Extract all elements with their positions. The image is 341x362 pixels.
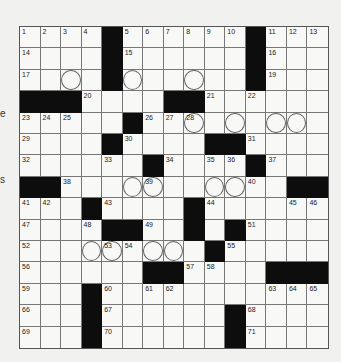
grid-cell[interactable] bbox=[164, 48, 185, 69]
grid-cell[interactable]: 19 bbox=[266, 70, 287, 91]
grid-cell[interactable]: 38 bbox=[61, 177, 82, 198]
grid-cell[interactable] bbox=[143, 305, 164, 326]
grid-cell[interactable]: 67 bbox=[102, 305, 123, 326]
grid-cell[interactable] bbox=[266, 305, 287, 326]
grid-cell[interactable]: 11 bbox=[266, 27, 287, 48]
grid-cell[interactable]: 10 bbox=[225, 27, 246, 48]
grid-cell[interactable]: 20 bbox=[82, 91, 103, 112]
grid-cell[interactable] bbox=[123, 91, 144, 112]
grid-cell[interactable] bbox=[41, 220, 62, 241]
grid-cell[interactable] bbox=[307, 327, 328, 348]
grid-cell[interactable] bbox=[287, 305, 308, 326]
grid-cell[interactable] bbox=[287, 70, 308, 91]
grid-cell[interactable]: 31 bbox=[246, 134, 267, 155]
grid-cell[interactable]: 34 bbox=[164, 155, 185, 176]
grid-cell[interactable]: 44 bbox=[205, 198, 226, 219]
grid-cell[interactable] bbox=[143, 327, 164, 348]
grid-cell[interactable] bbox=[225, 198, 246, 219]
grid-cell[interactable]: 61 bbox=[143, 284, 164, 305]
grid-cell[interactable] bbox=[307, 155, 328, 176]
grid-cell[interactable] bbox=[164, 241, 185, 262]
grid-cell[interactable]: 33 bbox=[102, 155, 123, 176]
grid-cell[interactable]: 42 bbox=[41, 198, 62, 219]
grid-cell[interactable] bbox=[41, 305, 62, 326]
grid-cell[interactable] bbox=[61, 262, 82, 283]
grid-cell[interactable] bbox=[205, 220, 226, 241]
grid-cell[interactable] bbox=[307, 48, 328, 69]
grid-cell[interactable]: 48 bbox=[82, 220, 103, 241]
grid-cell[interactable] bbox=[41, 70, 62, 91]
grid-cell[interactable] bbox=[164, 177, 185, 198]
grid-cell[interactable] bbox=[61, 155, 82, 176]
grid-cell[interactable]: 66 bbox=[20, 305, 41, 326]
grid-cell[interactable] bbox=[143, 91, 164, 112]
grid-cell[interactable] bbox=[123, 177, 144, 198]
grid-cell[interactable] bbox=[61, 241, 82, 262]
grid-cell[interactable]: 43 bbox=[102, 198, 123, 219]
grid-cell[interactable] bbox=[307, 220, 328, 241]
grid-cell[interactable]: 36 bbox=[225, 155, 246, 176]
grid-cell[interactable]: 24 bbox=[41, 113, 62, 134]
grid-cell[interactable]: 47 bbox=[20, 220, 41, 241]
grid-cell[interactable] bbox=[225, 262, 246, 283]
grid-cell[interactable] bbox=[205, 305, 226, 326]
grid-cell[interactable]: 53 bbox=[102, 241, 123, 262]
grid-cell[interactable] bbox=[266, 198, 287, 219]
grid-cell[interactable]: 35 bbox=[205, 155, 226, 176]
grid-cell[interactable]: 51 bbox=[246, 220, 267, 241]
grid-cell[interactable]: 15 bbox=[123, 48, 144, 69]
grid-cell[interactable]: 63 bbox=[266, 284, 287, 305]
grid-cell[interactable]: 28 bbox=[184, 113, 205, 134]
grid-cell[interactable] bbox=[287, 113, 308, 134]
grid-cell[interactable] bbox=[61, 305, 82, 326]
grid-cell[interactable] bbox=[184, 327, 205, 348]
grid-cell[interactable]: 13 bbox=[307, 27, 328, 48]
grid-cell[interactable] bbox=[266, 241, 287, 262]
grid-cell[interactable] bbox=[246, 113, 267, 134]
grid-cell[interactable] bbox=[143, 48, 164, 69]
grid-cell[interactable] bbox=[102, 177, 123, 198]
grid-cell[interactable] bbox=[164, 198, 185, 219]
grid-cell[interactable] bbox=[82, 177, 103, 198]
grid-cell[interactable] bbox=[307, 134, 328, 155]
grid-cell[interactable]: 32 bbox=[20, 155, 41, 176]
grid-cell[interactable]: 64 bbox=[287, 284, 308, 305]
grid-cell[interactable] bbox=[82, 155, 103, 176]
grid-cell[interactable] bbox=[287, 48, 308, 69]
grid-cell[interactable]: 57 bbox=[184, 262, 205, 283]
grid-cell[interactable]: 71 bbox=[246, 327, 267, 348]
grid-cell[interactable] bbox=[205, 70, 226, 91]
grid-cell[interactable] bbox=[41, 155, 62, 176]
grid-cell[interactable] bbox=[307, 241, 328, 262]
grid-cell[interactable] bbox=[205, 327, 226, 348]
grid-cell[interactable]: 22 bbox=[246, 91, 267, 112]
grid-cell[interactable] bbox=[266, 220, 287, 241]
grid-cell[interactable] bbox=[307, 70, 328, 91]
grid-cell[interactable]: 54 bbox=[123, 241, 144, 262]
grid-cell[interactable]: 41 bbox=[20, 198, 41, 219]
grid-cell[interactable]: 55 bbox=[225, 241, 246, 262]
grid-cell[interactable] bbox=[82, 241, 103, 262]
grid-cell[interactable] bbox=[102, 113, 123, 134]
grid-cell[interactable] bbox=[287, 134, 308, 155]
grid-cell[interactable] bbox=[307, 91, 328, 112]
grid-cell[interactable]: 21 bbox=[205, 91, 226, 112]
grid-cell[interactable]: 40 bbox=[246, 177, 267, 198]
grid-cell[interactable] bbox=[287, 155, 308, 176]
grid-cell[interactable] bbox=[143, 198, 164, 219]
grid-cell[interactable]: 49 bbox=[143, 220, 164, 241]
grid-cell[interactable] bbox=[82, 48, 103, 69]
grid-cell[interactable]: 9 bbox=[205, 27, 226, 48]
grid-cell[interactable]: 25 bbox=[61, 113, 82, 134]
grid-cell[interactable] bbox=[266, 113, 287, 134]
grid-cell[interactable] bbox=[287, 241, 308, 262]
grid-cell[interactable] bbox=[266, 134, 287, 155]
grid-cell[interactable]: 30 bbox=[123, 134, 144, 155]
grid-cell[interactable] bbox=[205, 177, 226, 198]
grid-cell[interactable]: 16 bbox=[266, 48, 287, 69]
grid-cell[interactable]: 45 bbox=[287, 198, 308, 219]
grid-cell[interactable] bbox=[61, 220, 82, 241]
grid-cell[interactable]: 26 bbox=[143, 113, 164, 134]
grid-cell[interactable]: 23 bbox=[20, 113, 41, 134]
grid-cell[interactable]: 59 bbox=[20, 284, 41, 305]
